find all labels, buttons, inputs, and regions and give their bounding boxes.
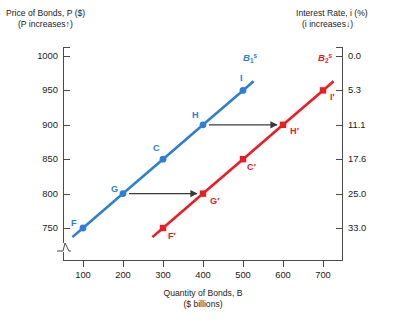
bond-supply-chart: Price of Bonds, P ($) (P increases↑) Int… — [0, 0, 400, 322]
x-axis-title: Quantity of Bonds, B ($ billions) — [63, 288, 343, 310]
data-point-label: F′ — [168, 231, 176, 241]
data-point-label: F — [71, 218, 77, 228]
data-point-marker — [240, 87, 247, 94]
data-point-label: C — [153, 143, 160, 153]
x-axis-title-line2: ($ billions) — [183, 299, 222, 309]
curve1-base: B — [243, 52, 250, 63]
data-point-marker — [160, 156, 167, 163]
x-axis-title-line1: Quantity of Bonds, B — [164, 288, 243, 298]
curve1-sup: s — [254, 52, 258, 59]
curve-b2s — [152, 81, 333, 237]
data-point-marker — [200, 190, 206, 196]
data-point-marker — [280, 122, 286, 128]
data-point-marker — [200, 121, 207, 128]
curve-label-b2s: B2s — [318, 52, 332, 64]
plot-area — [0, 0, 400, 322]
shift-arrows — [129, 125, 277, 194]
data-point-label: H′ — [290, 126, 299, 136]
data-point-label: G′ — [210, 196, 219, 206]
data-point-marker — [160, 225, 166, 231]
data-point-label: I′ — [330, 92, 335, 102]
curve-b1s — [72, 81, 253, 237]
data-point-label: G — [111, 184, 118, 194]
data-point-marker — [120, 190, 127, 197]
data-point-label: I — [240, 73, 243, 83]
data-point-label: C′ — [247, 162, 256, 172]
data-point-label: H — [192, 110, 199, 120]
data-point-marker — [240, 156, 246, 162]
curve2-base: B — [318, 52, 325, 63]
data-point-marker — [80, 225, 87, 232]
curve2-sup: s — [329, 52, 333, 59]
data-point-marker — [320, 87, 326, 93]
curve-label-b1s: B1s — [243, 52, 257, 64]
